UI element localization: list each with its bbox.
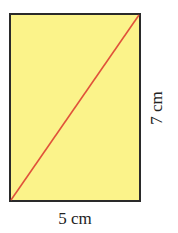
width-label: 5 cm (58, 209, 92, 228)
rectangle-diagram: 5 cm 7 cm (0, 0, 178, 233)
height-label: 7 cm (147, 91, 166, 125)
